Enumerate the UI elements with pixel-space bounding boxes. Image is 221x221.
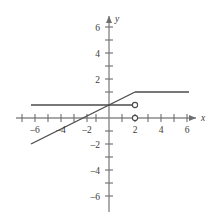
- x-tick-label: 4: [159, 125, 164, 135]
- coordinate-plane-svg: –6 –4 –2 2 4 6 6 4 2 –2 –4 –6 x y: [0, 0, 221, 221]
- y-tick-label: –4: [90, 166, 101, 176]
- open-circle-point: [132, 102, 137, 107]
- open-circle-point: [132, 115, 137, 120]
- y-tick-label: –6: [90, 192, 101, 202]
- y-tick-label: –2: [90, 140, 101, 150]
- y-axis-label: y: [114, 14, 120, 24]
- y-tick-label: 2: [95, 75, 100, 85]
- x-tick-label: 6: [185, 125, 190, 135]
- x-tick-label: –6: [29, 125, 40, 135]
- x-tick-label: –4: [55, 125, 66, 135]
- x-axis-label: x: [200, 113, 206, 123]
- x-tick-label: 2: [133, 125, 138, 135]
- plot-background: [0, 0, 221, 221]
- graph-figure: –6 –4 –2 2 4 6 6 4 2 –2 –4 –6 x y: [0, 0, 221, 221]
- x-tick-label: –2: [81, 125, 92, 135]
- y-tick-label: 4: [95, 49, 100, 59]
- y-tick-label: 6: [95, 23, 100, 33]
